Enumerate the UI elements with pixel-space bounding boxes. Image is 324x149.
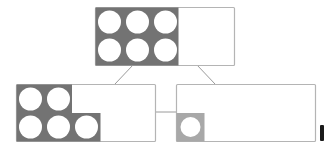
part-left-counter xyxy=(19,88,42,111)
connector-whole-to-left xyxy=(115,65,133,84)
whole-counter xyxy=(154,11,177,34)
part-left-counter xyxy=(19,116,42,139)
part-left-counter xyxy=(75,116,98,139)
part-right-frame xyxy=(177,85,316,142)
whole-counter xyxy=(98,39,121,62)
part-left-counter xyxy=(47,116,70,139)
whole-counter xyxy=(154,39,177,62)
part-left-counter xyxy=(47,88,70,111)
part-right-counter xyxy=(181,117,201,137)
connector-whole-to-right xyxy=(197,65,215,84)
whole-frame xyxy=(96,8,235,66)
edge-mark xyxy=(320,125,324,141)
whole-counter xyxy=(98,11,121,34)
whole-counter xyxy=(126,39,149,62)
part-left-frame xyxy=(17,85,156,142)
number-bond-diagram xyxy=(0,0,324,149)
whole-counter xyxy=(126,11,149,34)
